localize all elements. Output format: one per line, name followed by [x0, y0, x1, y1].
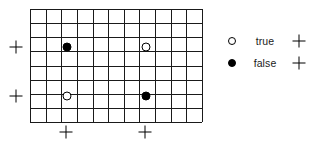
- row-tick-upper: [10, 41, 23, 54]
- grid-line-vertical: [202, 9, 203, 122]
- marker-false-upper-left: [63, 43, 72, 52]
- column-tick-left: [60, 126, 73, 139]
- grid-line-horizontal: [30, 66, 202, 67]
- legend-row-false: false: [222, 52, 330, 74]
- marker-false-lower-right: [142, 92, 151, 101]
- grid-line-horizontal: [30, 80, 202, 81]
- grid-line-horizontal: [30, 51, 202, 52]
- column-tick-right: [139, 126, 152, 139]
- figure-root: true false: [0, 0, 335, 142]
- row-tick-lower: [10, 90, 23, 103]
- legend-label-false: false: [242, 58, 288, 69]
- grid-line-horizontal: [30, 108, 202, 109]
- grid-plot-area: [30, 9, 202, 122]
- grid-line-horizontal: [30, 37, 202, 38]
- legend: true false: [222, 30, 330, 74]
- legend-plus-true-icon: [288, 30, 310, 52]
- grid-line-horizontal: [30, 122, 202, 123]
- legend-swatch-false-icon: [222, 52, 242, 74]
- grid-line-horizontal: [30, 94, 202, 95]
- legend-swatch-true-icon: [222, 30, 242, 52]
- legend-row-true: true: [222, 30, 330, 52]
- grid-lines: [30, 9, 202, 122]
- legend-plus-false-icon: [288, 52, 310, 74]
- grid-line-horizontal: [30, 9, 202, 10]
- grid-line-horizontal: [30, 23, 202, 24]
- marker-true-upper-right: [142, 43, 151, 52]
- legend-label-true: true: [242, 36, 288, 47]
- marker-true-lower-left: [63, 92, 72, 101]
